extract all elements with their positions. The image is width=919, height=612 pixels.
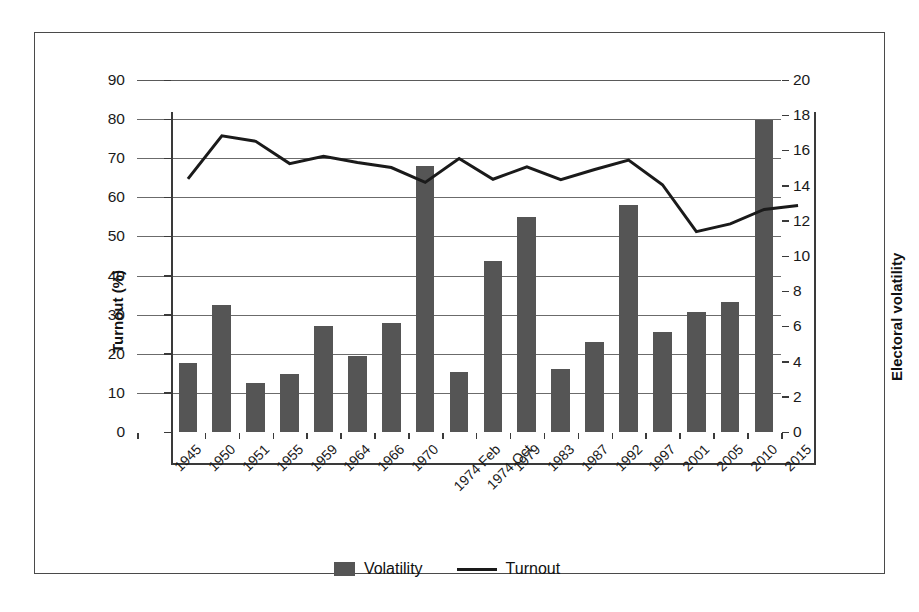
bar [314, 326, 333, 432]
x-axis-tick [306, 433, 308, 439]
y-axis-right-title: Electoral volatility [888, 253, 905, 381]
bar [382, 323, 401, 432]
x-axis-tick [137, 433, 139, 439]
chart-legend: Volatility Turnout [267, 556, 627, 582]
x-axis-tick [374, 433, 376, 439]
chart-frame: 9080706050403020100 20181614121086420 19… [34, 32, 885, 574]
bar [246, 383, 265, 432]
y-axis-left-tick [164, 392, 171, 394]
bar [585, 342, 604, 432]
gridline [137, 315, 781, 316]
x-axis-tick [340, 433, 342, 439]
bar [551, 369, 570, 432]
y-axis-left-tick [164, 314, 171, 316]
gridline [137, 158, 781, 159]
y-axis-left-tick [164, 353, 171, 355]
y-axis-right-tick [782, 432, 789, 434]
bar [517, 217, 536, 432]
bar [721, 302, 740, 432]
y-axis-left-tick-label: 70 [85, 150, 125, 166]
x-axis-tick [645, 433, 647, 439]
gridline [137, 197, 781, 198]
y-axis-left-tick-label: 80 [85, 111, 125, 127]
y-axis-left-tick [164, 80, 171, 82]
legend-entry-turnout[interactable]: Turnout [457, 560, 561, 578]
y-axis-right-tick [782, 326, 789, 328]
y-axis-right-tick-label: 18 [793, 107, 833, 123]
y-axis-right-tick-label: 10 [793, 248, 833, 264]
bar [450, 372, 469, 432]
bar [619, 205, 638, 432]
bar [416, 166, 435, 432]
x-axis-tick [408, 433, 410, 439]
y-axis-right-tick-label: 8 [793, 283, 833, 299]
y-axis-left-tick [164, 236, 171, 238]
bar [687, 312, 706, 432]
legend-label-turnout: Turnout [506, 560, 561, 578]
gridline [137, 354, 781, 355]
x-axis-tick [612, 433, 614, 439]
y-axis-right-tick-label: 14 [793, 178, 833, 194]
y-axis-right-tick-label: 20 [793, 72, 833, 88]
x-axis-tick [747, 433, 749, 439]
chart-figure: 9080706050403020100 20181614121086420 19… [0, 0, 919, 612]
legend-bar-swatch-icon [334, 562, 355, 576]
y-axis-right-tick-label: 0 [793, 424, 833, 440]
gridline [137, 119, 781, 120]
y-axis-right-tick [782, 291, 789, 293]
x-axis-tick [476, 433, 478, 439]
y-axis-left-tick [164, 158, 171, 160]
y-axis-left-title: Turnout (%) [109, 270, 126, 353]
gridline [137, 276, 781, 277]
legend-line-swatch-icon [457, 568, 497, 571]
y-axis-right-tick-label: 16 [793, 142, 833, 158]
y-axis-right-tick [782, 220, 789, 222]
y-axis-left-tick [164, 275, 171, 277]
x-axis-tick [273, 433, 275, 439]
bar [212, 305, 231, 432]
y-axis-left-line [171, 112, 173, 465]
bar [179, 363, 198, 432]
x-axis-tick [544, 433, 546, 439]
y-axis-right-tick [782, 256, 789, 258]
y-axis-left-tick [164, 197, 171, 199]
y-axis-right-tick [782, 361, 789, 363]
bar [755, 120, 774, 432]
x-axis-tick [578, 433, 580, 439]
y-axis-left-tick-label: 10 [85, 385, 125, 401]
x-axis-tick [510, 433, 512, 439]
gridline [137, 80, 781, 81]
y-axis-right-tick [782, 185, 789, 187]
gridline [137, 236, 781, 237]
y-axis-right-tick [782, 80, 789, 82]
x-axis-tick [205, 433, 207, 439]
bar [653, 332, 672, 432]
legend-entry-volatility[interactable]: Volatility [334, 560, 423, 578]
x-axis-tick [442, 433, 444, 439]
y-axis-right-tick [782, 115, 789, 117]
bar [280, 374, 299, 432]
y-axis-left-tick-label: 50 [85, 228, 125, 244]
x-axis-tick [713, 433, 715, 439]
y-axis-left-tick-label: 60 [85, 189, 125, 205]
y-axis-right-tick [782, 396, 789, 398]
y-axis-right-tick-label: 4 [793, 354, 833, 370]
y-axis-right-tick-label: 6 [793, 318, 833, 334]
y-axis-right-tick [782, 150, 789, 152]
x-axis-tick [781, 433, 783, 439]
y-axis-left-tick-label: 90 [85, 72, 125, 88]
bar [484, 261, 503, 432]
legend-label-volatility: Volatility [364, 560, 423, 578]
bar [348, 356, 367, 432]
y-axis-right-tick-label: 2 [793, 389, 833, 405]
y-axis-right-tick-label: 12 [793, 213, 833, 229]
x-axis-tick [171, 433, 173, 439]
y-axis-left-tick-label: 0 [85, 424, 125, 440]
y-axis-left-tick [164, 119, 171, 121]
x-axis-tick [239, 433, 241, 439]
x-axis-tick [679, 433, 681, 439]
